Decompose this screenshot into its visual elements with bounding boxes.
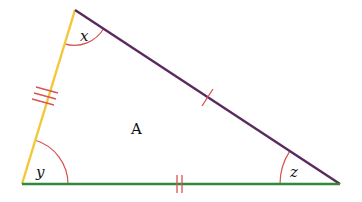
tick-marks-left bbox=[32, 87, 58, 105]
region-label: A bbox=[130, 120, 142, 138]
angle-arc-z bbox=[280, 151, 290, 184]
triangle-diagram: x y z A bbox=[0, 0, 362, 202]
tick-mark-hypotenuse bbox=[202, 89, 213, 106]
angle-label-x: x bbox=[80, 27, 89, 45]
angle-label-y: y bbox=[35, 163, 45, 181]
angle-label-z: z bbox=[289, 163, 298, 181]
